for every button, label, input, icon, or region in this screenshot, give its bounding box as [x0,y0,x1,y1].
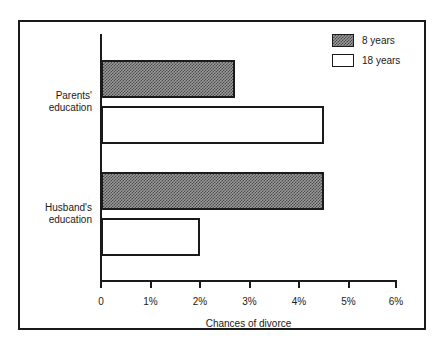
legend-swatch-white-icon [332,54,354,67]
bar-husbands-education-18-years[interactable] [101,218,200,256]
bar-parents-education-18-years[interactable] [101,106,324,144]
legend-swatch-hatch-icon [332,34,354,47]
legend-item-8-years[interactable]: 8 years [332,34,424,47]
tick-label-6: 6% [389,296,403,307]
tick-label-0: 0 [98,296,104,307]
tick-label-4: 4% [292,296,306,307]
bar-parents-education-8-years[interactable] [101,60,235,98]
legend-item-18-years[interactable]: 18 years [332,54,424,67]
chart-legend: 8 years 18 years [332,34,424,74]
tick-mark-2 [199,282,201,288]
tick-label-3: 3% [242,296,256,307]
legend-label-8-years: 8 years [362,35,395,46]
tick-mark-5 [348,282,350,288]
tick-label-2: 2% [193,296,207,307]
x-axis-title: Chances of divorce [100,318,397,329]
legend-label-18-years: 18 years [362,55,400,66]
tick-mark-3 [249,282,251,288]
chart-figure-frame: 0 1% 2% 3% 4% 5% 6% Chances of divorce P… [18,20,426,330]
category-label-parents-education: Parents' education [16,90,92,114]
category-label-husbands-education: Husband's education [16,202,92,226]
tick-mark-1 [150,282,152,288]
tick-mark-0 [100,282,102,288]
tick-label-1: 1% [143,296,157,307]
tick-mark-4 [298,282,300,288]
tick-label-5: 5% [341,296,355,307]
tick-mark-6 [395,282,397,288]
bar-husbands-education-8-years[interactable] [101,172,324,210]
